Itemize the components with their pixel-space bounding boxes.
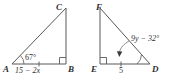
angle-label-A: 67°	[25, 53, 36, 62]
vertex-label-E: E	[90, 64, 97, 74]
side-label-ED: 5	[119, 66, 123, 75]
vertex-label-F: F	[95, 2, 102, 12]
angle-arc-D	[137, 55, 142, 65]
angle-label-D: 9y − 32°	[131, 34, 160, 43]
triangle-ABC	[12, 8, 66, 67]
angle-arc-A	[21, 56, 24, 64]
vertex-label-C: C	[56, 2, 63, 12]
right-angle-marker-B	[60, 58, 67, 65]
geometry-figure: A B C 67° 15 − 2x E D F 9y − 32° 5	[0, 0, 171, 78]
side-label-AB: 15 − 2x	[15, 66, 40, 75]
segment-AC	[12, 8, 66, 64]
leader-arrowhead	[117, 51, 122, 57]
right-angle-marker-E	[100, 58, 107, 65]
leader-line-angle-D	[120, 41, 130, 52]
vertex-label-A: A	[2, 64, 9, 74]
geometry-canvas: A B C 67° 15 − 2x E D F 9y − 32° 5	[0, 0, 171, 78]
vertex-label-D: D	[151, 64, 159, 74]
vertex-label-B: B	[67, 64, 74, 74]
